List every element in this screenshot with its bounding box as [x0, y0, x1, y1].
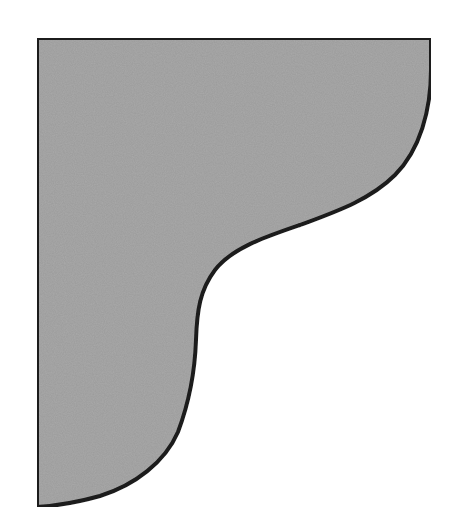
diagram-canvas [0, 0, 461, 532]
bracket-shape [37, 38, 431, 507]
bracket-shape-figure [0, 0, 461, 532]
